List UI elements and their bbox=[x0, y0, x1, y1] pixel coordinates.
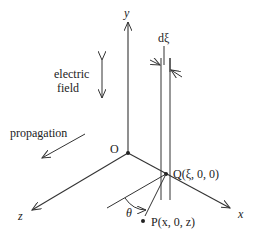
electric-field-label-line1: electric bbox=[54, 67, 89, 81]
slab-width-label: dξ bbox=[158, 31, 170, 45]
z-axis-label: z bbox=[17, 209, 23, 223]
point-p bbox=[141, 219, 145, 223]
diagram-canvas: y x z O dξ electric field propagation Q(… bbox=[0, 0, 255, 239]
point-q-label: Q(ξ, 0, 0) bbox=[173, 167, 219, 181]
theta-label: θ bbox=[126, 206, 132, 220]
electric-field-label-line2: field bbox=[57, 81, 79, 95]
origin-point bbox=[126, 151, 130, 155]
y-axis-label: y bbox=[123, 6, 130, 20]
x-axis-label: x bbox=[237, 207, 244, 221]
point-p-label: P(x, 0, z) bbox=[151, 215, 195, 229]
slab-arrow-right bbox=[171, 70, 182, 77]
origin-label: O bbox=[110, 142, 119, 156]
propagation-label: propagation bbox=[10, 126, 67, 140]
slab-arrow-left bbox=[150, 60, 160, 65]
z-axis bbox=[32, 153, 128, 210]
